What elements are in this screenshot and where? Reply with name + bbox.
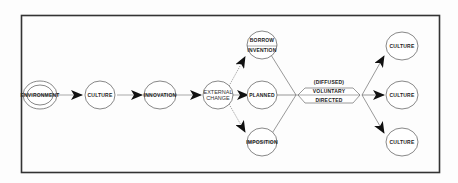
borrow-label: BORROW	[250, 37, 275, 43]
directed-label: DIRECTED	[315, 97, 342, 103]
node-innovation: INNOVATION	[143, 81, 177, 109]
culture-bottom-label: CULTURE	[390, 139, 415, 145]
diffused-label: (DIFFUSED)	[314, 79, 344, 85]
node-borrow-invention: BORROW INVENTION	[247, 31, 277, 59]
culture-start-label: CULTURE	[88, 92, 113, 98]
imposition-label: IMPOSITION	[246, 139, 278, 145]
culture-change-diagram: ENVIRONMENT CULTURE INNOVATION EXTERNAL …	[0, 0, 458, 183]
culture-mid-label: CULTURE	[390, 92, 415, 98]
node-diffusion-box: (DIFFUSED) VOLUNTARY DIRECTED	[296, 79, 360, 103]
node-planned: PLANNED	[247, 81, 277, 109]
voluntary-label: VOLUNTARY	[313, 88, 346, 94]
node-imposition: IMPOSITION	[246, 128, 278, 156]
planned-label: PLANNED	[249, 92, 275, 98]
external-change-line2: CHANGE	[206, 95, 230, 101]
node-environment: ENVIRONMENT	[20, 81, 59, 109]
node-culture-mid: CULTURE	[386, 81, 418, 109]
diverging-arrows	[362, 56, 384, 133]
invention-label: INVENTION	[247, 47, 276, 53]
node-culture-bottom: CULTURE	[386, 128, 418, 156]
node-culture-top: CULTURE	[386, 32, 418, 60]
node-external-change: EXTERNAL CHANGE	[203, 81, 233, 109]
node-culture-start: CULTURE	[85, 81, 115, 109]
environment-label: ENVIRONMENT	[20, 92, 59, 98]
culture-top-label: CULTURE	[390, 43, 415, 49]
innovation-label: INNOVATION	[144, 92, 177, 98]
